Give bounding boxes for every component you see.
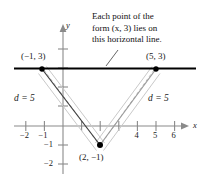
annotation-text-line-2: form (x, 3) lies on xyxy=(92,23,162,35)
annotation-leader-line xyxy=(106,50,118,66)
segment-right xyxy=(100,69,156,145)
x-tick-label-5: 5 xyxy=(153,130,157,140)
x-tick-label-neg2: −2 xyxy=(20,130,29,140)
distance-label-right: d = 5 xyxy=(148,93,169,104)
y-axis-label: y xyxy=(66,20,70,30)
point-marker-bottom xyxy=(97,142,103,148)
point-label-left: (−1, 3) xyxy=(21,51,46,62)
point-marker-left xyxy=(39,66,44,71)
annotation-text-line-1: Each point of the xyxy=(92,11,162,23)
segment-left xyxy=(42,69,100,145)
distance-label-left: d = 5 xyxy=(14,93,35,104)
y-tick-label-neg1: −1 xyxy=(44,139,53,149)
x-tick-label-6: 6 xyxy=(172,130,176,140)
point-label-bottom: (2, −1) xyxy=(79,152,104,163)
y-axis xyxy=(58,24,68,174)
x-axis-label: x xyxy=(193,120,197,130)
annotation-text-line-3: this horizontal line. xyxy=(92,34,162,46)
y-tick-label-neg2: −2 xyxy=(44,158,53,168)
x-tick-label-4: 4 xyxy=(135,130,139,140)
point-marker-right xyxy=(153,66,158,71)
coordinate-plot-figure: Each point of the form (x, 3) lies on th… xyxy=(0,0,211,189)
point-label-right: (5, 3) xyxy=(146,51,166,62)
annotation-text: Each point of the form (x, 3) lies on th… xyxy=(92,11,162,46)
